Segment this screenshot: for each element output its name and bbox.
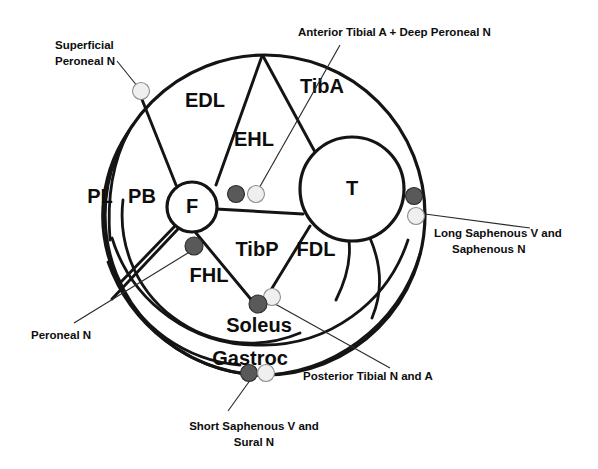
muscle-label-fdl: FDL xyxy=(297,238,336,260)
callout-superficial-peroneal-n: Superficial Peroneal N xyxy=(55,39,115,67)
crural-fascia-arc xyxy=(103,125,240,365)
leader-short-saphenous-v-sural-n xyxy=(228,379,251,411)
muscle-label-soleus: Soleus xyxy=(226,314,292,336)
callout-superficial-peroneal-n-line-1: Superficial xyxy=(55,39,114,51)
muscle-label-pl: PL xyxy=(87,185,113,207)
callout-posterior-tibial-n-a-line-1: Posterior Tibial N and A xyxy=(303,370,433,382)
callout-anterior-tibial-a-deep-peroneal-n: Anterior Tibial A + Deep Peroneal N xyxy=(298,26,491,38)
septum-edl-pb xyxy=(139,92,176,185)
leader-superficial-peroneal-n xyxy=(117,61,138,87)
dot-sural-n xyxy=(258,365,275,382)
interosseous-membrane xyxy=(216,209,303,214)
callout-short-saphenous-v-sural-n-line-2: Sural N xyxy=(234,436,274,448)
fibula-label: F xyxy=(186,195,198,217)
muscle-label-tibp: TibP xyxy=(236,238,279,260)
dot-short-saphenous-v xyxy=(241,365,258,382)
muscle-label-fhl: FHL xyxy=(190,264,229,286)
tibia-label: T xyxy=(346,177,358,199)
muscle-label-ehl: EHL xyxy=(234,128,274,150)
callout-peroneal-n: Peroneal N xyxy=(31,329,91,341)
dot-saphenous-n xyxy=(408,208,425,225)
callout-short-saphenous-v-sural-n: Short Saphenous V and Sural N xyxy=(189,420,319,448)
callout-posterior-tibial-n-a: Posterior Tibial N and A xyxy=(303,370,433,382)
soleus-tibial-attachment xyxy=(336,241,349,300)
callout-short-saphenous-v-sural-n-line-1: Short Saphenous V and xyxy=(189,420,319,432)
muscle-label-tiba: TibA xyxy=(300,75,344,97)
muscle-labels-group: EDL EHL TibA PL PB TibP FDL FHL Soleus G… xyxy=(87,75,344,369)
dot-deep-peroneal-n xyxy=(248,186,265,203)
muscle-label-edl: EDL xyxy=(185,89,225,111)
muscle-label-pb: PB xyxy=(128,185,156,207)
callout-anterior-tibial-a-deep-peroneal-n-line-1: Anterior Tibial A + Deep Peroneal N xyxy=(298,26,491,38)
figure-root: F T EDL EHL TibA PL PB TibP FDL FHL Sole… xyxy=(0,0,598,469)
callout-long-saphenous-v-saphenous-n-line-1: Long Saphenous V and xyxy=(434,227,562,239)
callout-long-saphenous-v-saphenous-n-line-2: Saphenous N xyxy=(452,243,525,255)
septum-fdl-deep-fascia xyxy=(370,238,380,318)
bones-group: F T xyxy=(167,137,404,241)
leg-cross-section-diagram: F T EDL EHL TibA PL PB TibP FDL FHL Sole… xyxy=(0,0,598,469)
dot-posterior-tibial-n xyxy=(249,295,267,313)
dot-anterior-tibial-a xyxy=(228,186,245,203)
leader-long-saphenous-v-saphenous-n xyxy=(425,214,530,228)
callout-superficial-peroneal-n-line-2: Peroneal N xyxy=(55,55,115,67)
dot-long-saphenous-v xyxy=(406,188,423,205)
dot-superficial-peroneal-n xyxy=(133,83,150,100)
callout-long-saphenous-v-saphenous-n: Long Saphenous V and Saphenous N xyxy=(434,227,562,255)
septum-edl-ehl xyxy=(216,56,262,185)
dot-peroneal-n xyxy=(185,237,203,255)
callout-peroneal-n-line-1: Peroneal N xyxy=(31,329,91,341)
